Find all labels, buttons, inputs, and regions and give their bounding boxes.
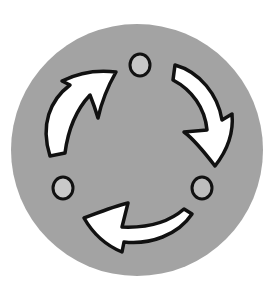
bottom-right-dot-icon (192, 177, 212, 199)
bottom-left-dot-icon (53, 177, 73, 199)
cycle-icon-stage: Cycle icon (0, 0, 277, 289)
top-dot-icon (130, 54, 150, 76)
cycle-icon (0, 0, 277, 289)
